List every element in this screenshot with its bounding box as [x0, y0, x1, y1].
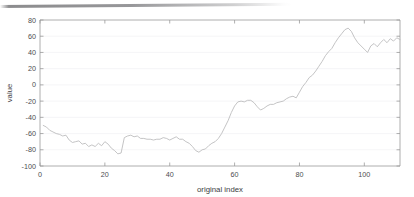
axes-frame [40, 20, 400, 166]
x-tick-label: 100 [358, 170, 370, 179]
data-series-group [43, 28, 400, 154]
y-axis-title: value [5, 84, 14, 103]
chart-figure: 020406080100 -100-80-60-40-20020406080 o… [0, 0, 414, 197]
x-axis-ticks [40, 20, 364, 166]
y-tick-label: 20 [28, 64, 36, 73]
y-tick-label: -40 [26, 113, 36, 122]
plot-border [40, 20, 400, 166]
series-line-value [43, 28, 400, 154]
x-tick-label: 0 [38, 170, 42, 179]
grid-lines [40, 36, 400, 150]
x-tick-label: 40 [166, 170, 174, 179]
y-axis-ticks [40, 20, 400, 166]
x-tick-label: 20 [101, 170, 109, 179]
y-axis-tick-labels: -100-80-60-40-20020406080 [22, 16, 36, 171]
x-axis-tick-labels: 020406080100 [38, 170, 370, 179]
x-tick-label: 60 [231, 170, 239, 179]
y-tick-label: 60 [28, 32, 36, 41]
x-axis-title: original index [197, 185, 243, 194]
x-tick-label: 80 [295, 170, 303, 179]
y-tick-label: -20 [26, 97, 36, 106]
y-tick-label: -60 [26, 129, 36, 138]
y-tick-label: 0 [32, 80, 36, 89]
y-tick-label: -80 [26, 145, 36, 154]
y-tick-label: 40 [28, 48, 36, 57]
line-chart: 020406080100 -100-80-60-40-20020406080 o… [0, 0, 414, 197]
y-tick-label: -100 [22, 162, 36, 171]
y-tick-label: 80 [28, 16, 36, 25]
